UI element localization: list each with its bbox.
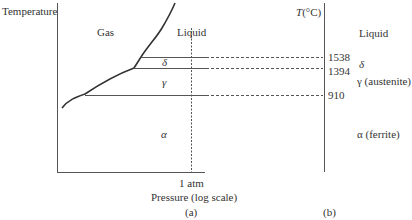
x-tick-1-atm: 1 atm <box>179 178 204 189</box>
region-gamma-label: γ <box>162 77 166 88</box>
temperature-axis-label: T(°C) <box>296 7 321 18</box>
temp-1394: 1394 <box>328 66 350 77</box>
x-axis-label: Pressure (log scale) <box>151 192 237 203</box>
phase-gamma-label: γ (austenite) <box>357 76 411 87</box>
phase-delta-label: δ <box>359 59 364 70</box>
caption-b: (b) <box>323 207 336 218</box>
caption-a: (a) <box>185 207 197 218</box>
region-delta-label: δ <box>162 57 167 68</box>
vaporization-curve <box>134 3 175 68</box>
temp-910: 910 <box>328 90 345 101</box>
temperature-unit: (°C) <box>302 6 321 18</box>
sublimation-curve <box>62 68 134 108</box>
temp-1538: 1538 <box>328 52 350 63</box>
phase-alpha-label: α (ferrite) <box>357 129 400 140</box>
region-alpha-label: α <box>161 129 167 140</box>
phase-liquid-label: Liquid <box>359 28 388 39</box>
y-axis-label: Temperature <box>2 6 57 17</box>
region-gas-label: Gas <box>97 27 114 38</box>
region-liquid-label: Liquid <box>177 27 206 38</box>
